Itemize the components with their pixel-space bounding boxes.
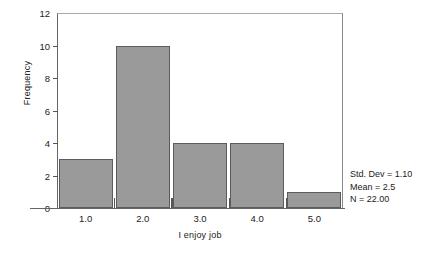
- bars-container: [57, 13, 343, 208]
- x-axis-baseline: [30, 208, 345, 209]
- x-axis-tick-label: 4.0: [251, 213, 264, 224]
- bar: [287, 192, 341, 208]
- x-axis-tick-label: 2.0: [136, 213, 149, 224]
- statistics-annotation: Std. Dev = 1.10 Mean = 2.5 N = 22.00: [350, 168, 412, 206]
- bar: [230, 143, 284, 208]
- bar: [173, 143, 227, 208]
- x-axis-tick-label: 1.0: [79, 213, 92, 224]
- x-axis-title: I enjoy job: [57, 230, 343, 240]
- chart-canvas: Frequency 024681012 I enjoy job Std. Dev…: [0, 0, 433, 253]
- bar: [116, 46, 170, 209]
- y-axis-tick-mark: [53, 143, 58, 144]
- y-axis-tick-mark: [53, 176, 58, 177]
- y-axis-tick-label: 12: [32, 8, 50, 19]
- y-axis-title: Frequency: [22, 43, 32, 123]
- y-axis-tick-mark: [53, 78, 58, 79]
- y-axis-tick-label: 2: [32, 170, 50, 181]
- mean-text: Mean = 2.5: [350, 181, 412, 194]
- x-axis-tick-mark: [286, 198, 287, 208]
- y-axis-tick-label: 8: [32, 73, 50, 84]
- y-axis-tick-mark: [53, 111, 58, 112]
- x-axis-tick-mark: [114, 198, 115, 208]
- x-axis-tick-mark: [171, 198, 172, 208]
- std-dev-text: Std. Dev = 1.10: [350, 168, 412, 181]
- y-axis-tick-label: 10: [32, 40, 50, 51]
- y-axis-tick-mark: [53, 46, 58, 47]
- x-axis-tick-mark: [229, 198, 230, 208]
- y-axis-tick-label: 4: [32, 138, 50, 149]
- y-axis-tick-labels: 024681012: [32, 0, 50, 253]
- x-axis-tick-label: 3.0: [193, 213, 206, 224]
- x-axis-tick-label: 5.0: [308, 213, 321, 224]
- n-text: N = 22.00: [350, 193, 412, 206]
- bar: [59, 159, 113, 208]
- y-axis-tick-label: 6: [32, 105, 50, 116]
